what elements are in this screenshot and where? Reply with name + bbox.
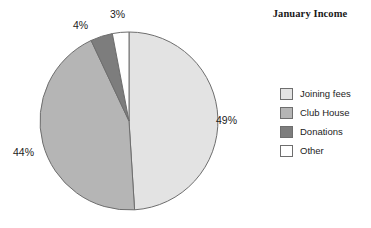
slice-label-donations: 4% bbox=[73, 19, 88, 31]
pie-chart-graphic bbox=[38, 28, 224, 218]
pie-slice[interactable] bbox=[129, 32, 218, 210]
pie-chart-figure: January Income 49% 44% 4% 3% Joining fee… bbox=[0, 0, 371, 228]
slice-label-club-house: 44% bbox=[13, 146, 34, 158]
legend-item-donations[interactable]: Donations bbox=[280, 122, 371, 141]
legend-item-other[interactable]: Other bbox=[280, 141, 371, 160]
legend-swatch-icon bbox=[280, 126, 293, 138]
chart-legend: Joining fees Club House Donations Other bbox=[280, 84, 371, 160]
legend-label: Joining fees bbox=[300, 89, 351, 99]
slice-label-joining-fees: 49% bbox=[216, 114, 237, 126]
slice-label-other: 3% bbox=[110, 8, 125, 20]
legend-label: Club House bbox=[300, 108, 350, 118]
legend-swatch-icon bbox=[280, 88, 293, 100]
pie-svg bbox=[38, 28, 224, 218]
legend-label: Other bbox=[300, 146, 324, 156]
pie-slice-group bbox=[40, 32, 218, 210]
legend-swatch-icon bbox=[280, 107, 293, 119]
legend-item-club-house[interactable]: Club House bbox=[280, 103, 371, 122]
legend-swatch-icon bbox=[280, 145, 293, 157]
legend-item-joining-fees[interactable]: Joining fees bbox=[280, 84, 371, 103]
chart-title: January Income bbox=[252, 8, 368, 19]
legend-label: Donations bbox=[300, 127, 343, 137]
